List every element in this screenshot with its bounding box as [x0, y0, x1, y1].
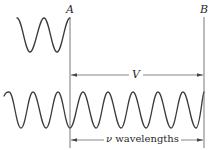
- label-distance-v: V: [129, 69, 143, 80]
- top-wave: [17, 18, 70, 52]
- arrowhead-right-icon: [197, 73, 203, 76]
- wave-diagram: [0, 0, 212, 150]
- arrowhead-right-icon: [197, 138, 203, 141]
- label-point-a: A: [66, 4, 74, 15]
- wavelengths-text: wavelengths: [112, 133, 179, 144]
- label-wavelengths: ν wavelengths: [104, 134, 181, 144]
- bottom-wave: [4, 92, 204, 128]
- arrowhead-left-icon: [71, 73, 77, 76]
- arrowhead-left-icon: [71, 138, 77, 141]
- label-point-b: B: [200, 4, 208, 15]
